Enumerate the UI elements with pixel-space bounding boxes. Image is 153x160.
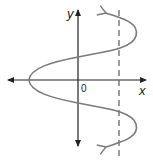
y-axis-label: y [66,6,75,21]
origin-label: 0 [81,83,87,94]
x-axis-label: x [138,83,146,98]
graph-diagram: y x 0 [0,0,153,160]
